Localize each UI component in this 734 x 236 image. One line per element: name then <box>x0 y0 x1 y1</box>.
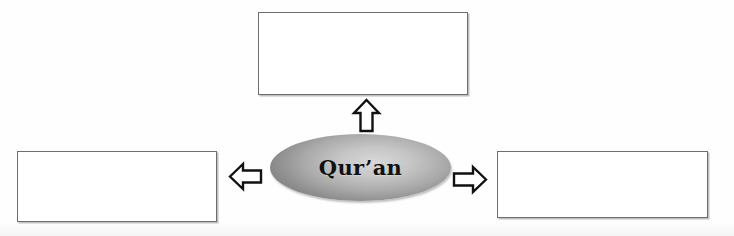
block-arrow-right-icon <box>452 165 488 194</box>
central-node-label: Qur’an <box>270 134 451 201</box>
answer-box-left[interactable] <box>17 151 217 222</box>
scan-shadow <box>0 222 734 236</box>
answer-box-top-text <box>259 13 467 25</box>
answer-box-right-text <box>498 152 707 164</box>
diagram-canvas: Qur’an <box>0 0 734 236</box>
block-arrow-left-icon <box>228 162 263 191</box>
block-arrow-up-icon <box>352 98 381 133</box>
answer-box-top[interactable] <box>258 12 468 95</box>
answer-box-left-text <box>18 152 216 164</box>
central-node-quran: Qur’an <box>270 134 451 201</box>
answer-box-right[interactable] <box>497 151 708 218</box>
